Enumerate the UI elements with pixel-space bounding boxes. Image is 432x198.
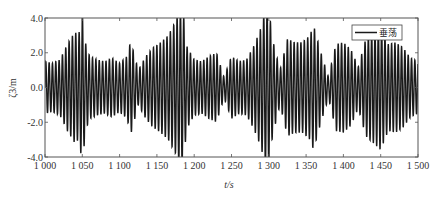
heave-time-series-chart: 1 0001 0501 1001 1501 2001 2501 3001 350…: [0, 0, 432, 198]
y-axis-label: ζ3/m: [7, 78, 19, 98]
y-tick-label: 2.0: [31, 47, 44, 58]
x-tick-label: 1 250: [220, 160, 243, 171]
legend-entry-heave: 垂荡: [379, 27, 397, 38]
x-axis-label: t/s: [224, 179, 234, 190]
x-tick-label: 1 350: [295, 160, 318, 171]
x-tick-label: 1 150: [146, 160, 169, 171]
x-tick-label: 1 200: [183, 160, 206, 171]
y-tick-label: 0.0: [31, 82, 44, 93]
x-tick-label: 1 500: [407, 160, 430, 171]
x-tick-label: 1 400: [332, 160, 355, 171]
x-tick-label: 1 300: [258, 160, 281, 171]
x-tick-label: 1 100: [108, 160, 131, 171]
legend: 垂荡: [352, 25, 402, 40]
y-tick-label: -2.0: [27, 117, 43, 128]
x-tick-label: 1 050: [71, 160, 94, 171]
x-tick-label: 1 450: [369, 160, 392, 171]
y-tick-label: -4.0: [27, 152, 43, 163]
y-tick-label: 4.0: [31, 13, 44, 24]
